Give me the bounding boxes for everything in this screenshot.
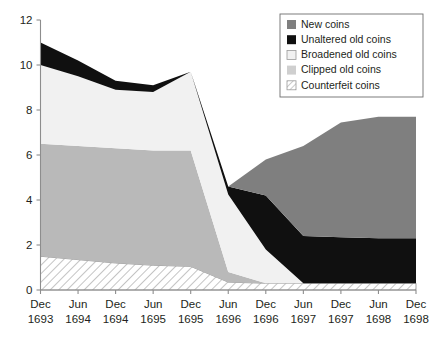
x-axis-category-label: Dec1698 — [403, 298, 429, 325]
x-axis-category-label: Jun1697 — [291, 298, 317, 325]
legend-item-unaltered-old-coins[interactable]: Unaltered old coins — [287, 33, 391, 45]
legend-item-broadened-old-coins[interactable]: Broadened old coins — [287, 48, 397, 60]
legend-label: Counterfeit coins — [301, 79, 380, 91]
x-axis-label-year: 1696 — [253, 313, 279, 325]
legend-label: Unaltered old coins — [301, 33, 391, 45]
legend-swatch — [287, 20, 296, 29]
x-axis-label-month: Dec — [30, 298, 51, 310]
legend-swatch — [287, 66, 296, 75]
x-axis-label-month: Jun — [69, 298, 88, 310]
x-axis-category-label: Dec1696 — [253, 298, 279, 325]
x-axis-category-label: Jun1695 — [140, 298, 166, 325]
y-axis-tick-label: 0 — [26, 284, 32, 296]
x-axis-label-year: 1697 — [328, 313, 354, 325]
x-axis-label-month: Jun — [144, 298, 163, 310]
x-axis-label-year: 1695 — [178, 313, 204, 325]
y-axis-tick-label: 8 — [26, 104, 32, 116]
y-axis-tick-label: 6 — [26, 149, 32, 161]
y-axis-tick-labels: 024681012 — [20, 14, 33, 296]
x-axis-category-label: Jun1694 — [65, 298, 91, 325]
x-axis-category-label: Dec1693 — [28, 298, 54, 325]
x-axis-category-label: Dec1695 — [178, 298, 204, 325]
y-axis-tick-label: 12 — [20, 14, 33, 26]
x-axis-label-month: Dec — [180, 298, 201, 310]
chart-canvas: 024681012 Dec1693Jun1694Dec1694Jun1695De… — [0, 0, 429, 338]
y-axis-tick-label: 2 — [26, 239, 32, 251]
x-axis-tick-labels: Dec1693Jun1694Dec1694Jun1695Dec1695Jun16… — [28, 298, 429, 325]
x-axis-label-year: 1693 — [28, 313, 54, 325]
x-axis-label-year: 1694 — [103, 313, 129, 325]
y-axis-tick-label: 10 — [20, 59, 33, 71]
chart-legend: New coinsUnaltered old coinsBroadened ol… — [280, 14, 423, 97]
x-axis-label-year: 1695 — [140, 313, 166, 325]
legend-item-clipped-old-coins[interactable]: Clipped old coins — [287, 63, 381, 75]
legend-label: Broadened old coins — [301, 48, 397, 60]
x-axis-category-label: Dec1694 — [103, 298, 129, 325]
x-axis-category-label: Dec1697 — [328, 298, 354, 325]
x-axis-label-month: Jun — [219, 298, 238, 310]
legend-swatch — [287, 50, 296, 59]
x-axis-label-year: 1697 — [291, 313, 317, 325]
legend-label: Clipped old coins — [301, 63, 381, 75]
x-axis-label-year: 1696 — [215, 313, 241, 325]
x-axis-category-label: Jun1696 — [215, 298, 241, 325]
legend-label: New coins — [301, 18, 349, 30]
x-axis-label-year: 1698 — [403, 313, 429, 325]
x-axis-label-month: Dec — [256, 298, 277, 310]
legend-swatch — [287, 35, 296, 44]
x-axis-label-year: 1694 — [65, 313, 91, 325]
x-axis-label-year: 1698 — [366, 313, 392, 325]
stacked-area-chart: 024681012 Dec1693Jun1694Dec1694Jun1695De… — [0, 0, 429, 338]
x-axis-label-month: Jun — [294, 298, 313, 310]
legend-item-counterfeit-coins[interactable]: Counterfeit coins — [287, 79, 380, 91]
x-axis-label-month: Dec — [105, 298, 126, 310]
x-axis-label-month: Dec — [331, 298, 352, 310]
x-axis-label-month: Dec — [406, 298, 427, 310]
y-axis-tick-label: 4 — [26, 194, 33, 206]
x-axis-label-month: Jun — [369, 298, 388, 310]
legend-swatch — [287, 81, 296, 90]
x-axis-category-label: Jun1698 — [366, 298, 392, 325]
